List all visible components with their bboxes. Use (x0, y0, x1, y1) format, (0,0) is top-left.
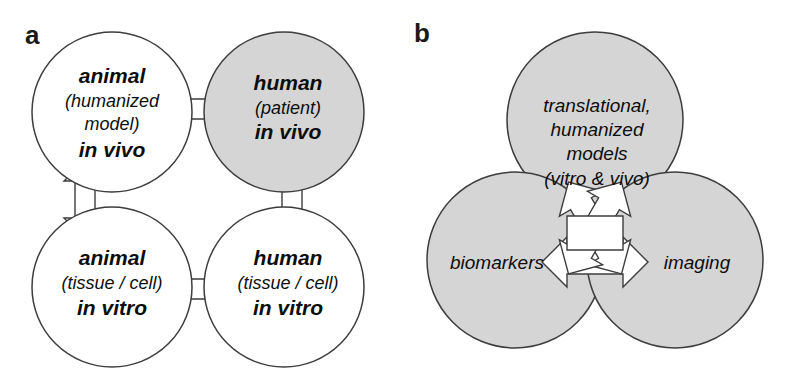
panel-a-svg: animal (humanized model) in vivo human (… (0, 0, 397, 376)
node-animal-in-vivo (32, 32, 192, 192)
node-line: imaging (664, 252, 731, 273)
node-line: (vitro & vivo) (544, 168, 650, 189)
node-line: in vitro (77, 296, 147, 319)
node-label-human-in-vivo: human (patient) in vivo (254, 71, 323, 143)
node-line: human (254, 246, 323, 269)
node-line: in vivo (255, 120, 322, 143)
node-line: animal (79, 246, 147, 269)
node-line: (tissue / cell) (61, 273, 162, 293)
node-line: biomarkers (450, 252, 544, 273)
node-line: humanized (551, 119, 645, 140)
node-label-biomarkers: biomarkers (450, 252, 544, 273)
node-line: human (254, 71, 323, 94)
node-line: (humanized (65, 91, 160, 111)
figure-root: a a (0, 0, 794, 376)
node-line: (patient) (255, 98, 321, 118)
node-line: in vivo (79, 138, 146, 161)
panel-a: a a (0, 0, 397, 376)
node-line: animal (79, 64, 147, 87)
node-line: models (566, 143, 628, 164)
panel-b-svg: translational, humanized models (vitro &… (397, 0, 794, 376)
node-label-imaging: imaging (664, 252, 731, 273)
node-line: in vitro (253, 296, 323, 319)
panel-b: b translat (397, 0, 794, 376)
node-line: model) (84, 114, 139, 134)
node-line: (tissue / cell) (237, 273, 338, 293)
arrow-hub (567, 216, 623, 250)
node-line: translational, (543, 95, 651, 116)
